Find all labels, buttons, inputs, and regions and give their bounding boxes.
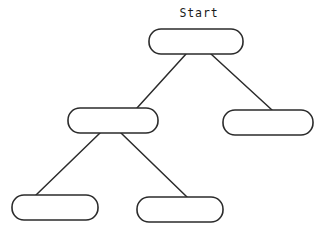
edge-mid-left-to-leaf-middle xyxy=(121,133,187,197)
leaf-left-node-shape[interactable] xyxy=(12,195,98,220)
mid-right-node-shape[interactable] xyxy=(223,110,313,135)
mid-left-node[interactable] xyxy=(68,108,158,133)
leaf-middle-node[interactable] xyxy=(137,197,223,222)
tree-diagram: Start xyxy=(0,0,322,237)
leaf-middle-node-shape[interactable] xyxy=(137,197,223,222)
edge-mid-left-to-leaf-left xyxy=(36,133,100,195)
edge-root-to-mid-right xyxy=(211,54,272,110)
caption-layer: Start xyxy=(179,6,218,20)
root-node-shape[interactable] xyxy=(149,29,243,54)
edge-root-to-mid-left xyxy=(137,54,186,108)
leaf-left-node[interactable] xyxy=(12,195,98,220)
node-layer xyxy=(12,29,313,222)
start-caption: Start xyxy=(179,6,218,20)
diagram-canvas: Start xyxy=(0,0,322,237)
mid-right-node[interactable] xyxy=(223,110,313,135)
root-node[interactable] xyxy=(149,29,243,54)
mid-left-node-shape[interactable] xyxy=(68,108,158,133)
